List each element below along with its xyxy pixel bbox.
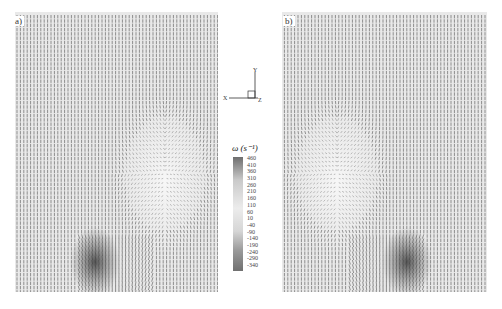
colorbar-gradient	[233, 157, 243, 271]
colorbar-tick: -40	[247, 222, 258, 229]
colorbar-tick: 360	[247, 168, 258, 175]
colorbar-tick-labels: 4604103603102602101601106010-40-90-140-1…	[247, 155, 258, 269]
colorbar-tick: 460	[247, 155, 258, 162]
coordinate-axes-indicator: X Y Z	[222, 68, 272, 108]
colorbar-tick: -340	[247, 262, 258, 269]
panel-label-a: a)	[13, 16, 24, 26]
panel-label-b: b)	[283, 16, 295, 26]
axis-label-x: X	[223, 95, 228, 101]
colorbar-tick: 110	[247, 202, 258, 209]
axes-icon: X Y Z	[222, 68, 272, 108]
colorbar-tick: 160	[247, 195, 258, 202]
colorbar-tick: 310	[247, 175, 258, 182]
colorbar-tick: -190	[247, 242, 258, 249]
vector-field-panel-a	[15, 12, 218, 292]
colorbar-tick: -240	[247, 249, 258, 256]
colorbar-tick: -90	[247, 229, 258, 236]
axis-label-y: Y	[253, 68, 258, 73]
colorbar-tick: 10	[247, 215, 258, 222]
colorbar-tick: 210	[247, 188, 258, 195]
vector-field-plot-a	[15, 12, 218, 292]
colorbar-tick: 410	[247, 162, 258, 169]
colorbar-tick: -290	[247, 255, 258, 262]
axis-label-z: Z	[258, 97, 262, 103]
colorbar-tick: 60	[247, 209, 258, 216]
colorbar-title: ω (s⁻¹)	[232, 143, 258, 153]
vector-field-plot-b	[282, 12, 487, 292]
colorbar-tick: -140	[247, 235, 258, 242]
vector-field-panel-b	[282, 12, 487, 292]
colorbar-tick: 260	[247, 182, 258, 189]
